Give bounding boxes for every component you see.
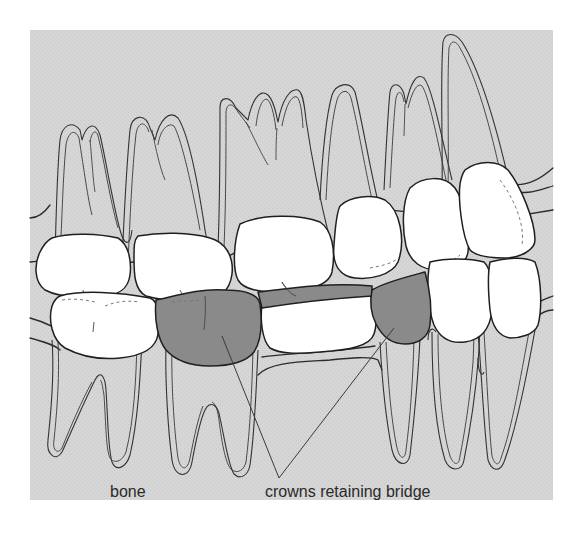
dental-bridge-diagram: bone crowns retaining bridge	[0, 0, 588, 537]
lower-crown-canine	[428, 259, 493, 342]
lower-crown-molar-1	[51, 292, 160, 358]
upper-crown-canine	[334, 197, 402, 279]
lower-crown-incisor	[489, 258, 541, 338]
bridge-crown-left	[155, 290, 261, 366]
label-bone: bone	[110, 483, 146, 500]
upper-crown-premolar	[234, 216, 333, 292]
label-crowns-retaining-bridge: crowns retaining bridge	[265, 483, 431, 500]
upper-crown-molar-1	[36, 234, 131, 297]
